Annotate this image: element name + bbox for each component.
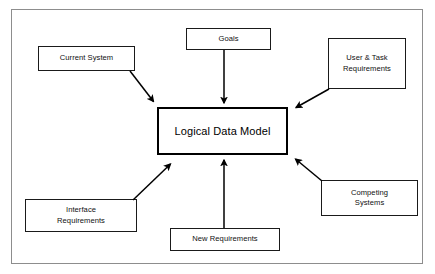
diagram-canvas: Current System Goals User & Task Require…: [0, 0, 435, 274]
node-current-system[interactable]: Current System: [38, 46, 135, 71]
node-competing-systems[interactable]: Competing Systems: [321, 180, 418, 216]
node-user-task-requirements[interactable]: User & Task Requirements: [328, 38, 406, 89]
node-logical-data-model[interactable]: Logical Data Model: [157, 107, 288, 155]
node-interface-requirements[interactable]: Interface Requirements: [25, 199, 137, 232]
node-new-requirements[interactable]: New Requirements: [170, 228, 280, 251]
node-goals[interactable]: Goals: [186, 28, 271, 50]
